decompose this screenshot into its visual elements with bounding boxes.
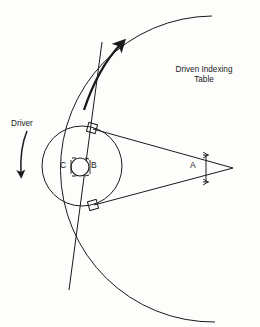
label-driver: Driver: [11, 119, 33, 129]
driver-rotation-arrow: [21, 131, 27, 173]
tangent-line-lower: [94, 168, 233, 205]
driven-table-line-2: Table: [194, 75, 214, 84]
label-center-c: C: [60, 160, 66, 170]
indexing-table-diagram: [0, 0, 260, 327]
diagram-canvas: Driven IndexingTable Driver C B A: [0, 0, 260, 327]
label-driven-indexing-table: Driven IndexingTable: [165, 65, 243, 84]
tangent-line-upper: [93, 129, 233, 168]
hub-circle: [71, 158, 89, 176]
driven-rotation-arrow: [84, 45, 120, 110]
label-center-b: B: [91, 160, 97, 170]
label-angle-a: A: [190, 160, 196, 170]
driven-table-line-1: Driven Indexing: [176, 65, 233, 74]
